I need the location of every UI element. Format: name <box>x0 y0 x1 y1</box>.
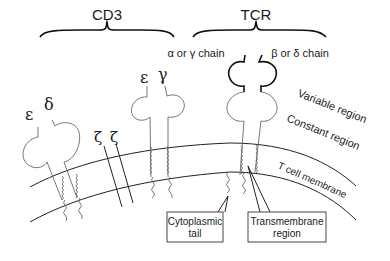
delta-label: δ <box>44 95 54 114</box>
cd3-brace <box>40 22 174 37</box>
cytoplasmic-tail-callout: Cytoplasmic tail <box>167 196 228 242</box>
cd3-zeta-dimer: ζ ζ <box>94 128 133 207</box>
tcr-variable-domain-alpha <box>229 55 245 92</box>
tcr-variable-domain-beta <box>259 55 276 92</box>
cytoplasmic-line-1: Cytoplasmic <box>168 216 222 227</box>
beta-delta-chain-label: β or δ chain <box>271 47 329 59</box>
tcr-constant-domain-alpha <box>227 92 244 121</box>
transmembrane-line-2: region <box>273 228 301 239</box>
cd3-tcr-complex-diagram: CD3 TCR ε δ ζ ζ ε γ <box>0 0 390 261</box>
zeta-label-1: ζ <box>94 128 102 146</box>
epsilon-label-2: ε <box>140 68 148 87</box>
epsilon-label-1: ε <box>25 105 33 124</box>
cytoplasmic-line-2: tail <box>189 228 202 239</box>
tcr-brace <box>193 22 326 37</box>
gamma-label: γ <box>158 65 168 84</box>
transmembrane-line-1: Transmembrane <box>251 216 324 227</box>
zeta-label-2: ζ <box>110 128 118 146</box>
cd3-label: CD3 <box>92 6 122 23</box>
tcr-constant-domain-beta <box>261 92 277 121</box>
alpha-gamma-chain-label: α or γ chain <box>167 47 224 59</box>
tcr-label: TCR <box>241 6 272 23</box>
